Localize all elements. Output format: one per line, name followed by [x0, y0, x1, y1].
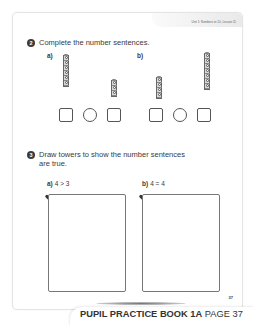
cube-tower-b-left: [156, 77, 162, 99]
question-2-header: 2 Complete the number sentences.: [27, 38, 149, 47]
q3b-label: b): [142, 180, 148, 187]
cube: [205, 84, 210, 89]
q2b-left-answer-box[interactable]: [149, 108, 163, 122]
q2b-comparison-circle[interactable]: [173, 108, 187, 122]
cube-tower-a-right: [111, 80, 117, 97]
question-3-instruction-line1: Draw towers to show the number sentences: [39, 150, 185, 159]
cube: [112, 91, 117, 96]
book-spine-shadow: [96, 302, 186, 305]
q2-part-a-label: a): [47, 52, 53, 59]
q3a-sentence: a)4 > 3: [47, 180, 69, 187]
q2b-right-answer-box[interactable]: [197, 108, 211, 122]
cube-tower-b-right: [204, 53, 210, 90]
q3b-expression: 4 = 4: [150, 180, 165, 187]
question-2-instruction: Complete the number sentences.: [39, 38, 149, 47]
footer-caption: PUPIL PRACTICE BOOK 1A PAGE 37: [80, 309, 243, 319]
q3a-drawing-area[interactable]: [48, 194, 126, 292]
question-number-badge: 2: [27, 39, 35, 47]
footer-page-label: PAGE 37: [205, 309, 243, 319]
q3b-sentence: b)4 = 4: [142, 180, 165, 187]
q3a-label: a): [47, 180, 53, 187]
q2a-comparison-circle[interactable]: [83, 108, 97, 122]
cube-tower-a-left: [63, 55, 69, 87]
cube: [64, 81, 69, 86]
q2a-right-answer-box[interactable]: [107, 108, 121, 122]
q3a-expression: 4 > 3: [55, 180, 70, 187]
page-number: 37: [229, 295, 233, 300]
footer-book-title: PUPIL PRACTICE BOOK 1A: [80, 309, 202, 319]
cube: [157, 93, 162, 98]
question-3-header: 3 Draw towers to show the number sentenc…: [27, 150, 185, 168]
q2-part-b-label: b): [137, 52, 143, 59]
q2a-left-answer-box[interactable]: [59, 108, 73, 122]
question-3-instruction-line2: are true.: [39, 159, 185, 168]
q3b-drawing-area[interactable]: [142, 194, 220, 292]
unit-lesson-header: Unit 1: Numbers to 10, Lesson 11: [192, 20, 236, 24]
question-number-badge: 3: [27, 151, 35, 159]
